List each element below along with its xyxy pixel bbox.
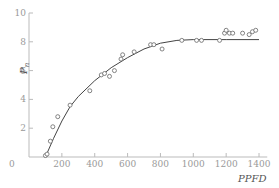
data-point: [218, 38, 222, 42]
x-tick-label: 800: [152, 159, 169, 169]
x-tick-label: 1400: [248, 159, 271, 169]
data-point: [160, 47, 164, 51]
fitted-curve: [45, 40, 259, 157]
data-point: [180, 38, 184, 42]
y-tick-label: 4: [20, 94, 26, 104]
data-point: [51, 125, 55, 129]
data-point: [231, 31, 235, 35]
y-tick-label: 10: [15, 8, 27, 18]
x-tick-label: 200: [53, 159, 70, 169]
data-point: [103, 71, 107, 75]
data-point: [200, 38, 204, 42]
x-axis-label: PPFD: [237, 173, 266, 184]
data-point: [45, 152, 49, 156]
data-point: [68, 103, 72, 107]
data-point: [119, 57, 123, 61]
x-tick-label: 400: [86, 159, 103, 169]
data-point: [112, 69, 116, 73]
x-tick-label: 1200: [215, 159, 238, 169]
curve-path: [45, 40, 259, 157]
x-tick-label: 1000: [182, 159, 205, 169]
x-tick-label: 0: [9, 159, 15, 169]
light-response-chart: 0200400600800100012001400246810 Pn PPFD: [0, 0, 279, 188]
data-points: [43, 28, 257, 157]
data-point: [56, 115, 60, 119]
data-point: [88, 89, 92, 93]
data-point: [48, 139, 52, 143]
y-tick-label: 2: [20, 123, 26, 133]
data-point: [241, 31, 245, 35]
y-tick-label: 8: [20, 37, 26, 47]
data-point: [132, 50, 136, 54]
x-tick-label: 600: [119, 159, 136, 169]
data-point: [152, 43, 156, 47]
data-point: [121, 53, 125, 57]
data-point: [108, 74, 112, 78]
data-point: [195, 38, 199, 42]
data-point: [254, 28, 258, 32]
